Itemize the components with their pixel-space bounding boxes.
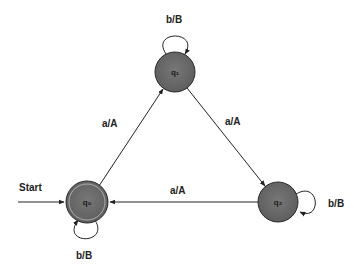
state-q2: q₂ — [258, 182, 298, 222]
transition-label-q0-q1: a/A — [102, 118, 118, 129]
self-loop-q2 — [296, 191, 315, 213]
transition-label-q2-q0: a/A — [170, 185, 186, 196]
self-loop-label-q2: b/B — [328, 198, 344, 209]
state-label-q0: q₀ — [83, 198, 92, 207]
transition-q1-q2 — [187, 88, 265, 186]
state-q1: q₁ — [155, 52, 195, 92]
start-label: Start — [19, 182, 42, 193]
transition-label-q1-q2: a/A — [225, 116, 241, 127]
state-label-q2: q₂ — [274, 198, 283, 207]
state-diagram: Start a/A a/A a/A b/B b/B b/B q₁ q₀ q₂ — [0, 0, 359, 272]
self-loop-label-q1: b/B — [166, 14, 182, 25]
self-loop-label-q0: b/B — [76, 250, 92, 261]
transition-q0-q1 — [99, 89, 163, 186]
state-q0: q₀ — [66, 181, 108, 223]
state-label-q1: q₁ — [171, 68, 180, 77]
self-loop-q1 — [163, 36, 188, 54]
